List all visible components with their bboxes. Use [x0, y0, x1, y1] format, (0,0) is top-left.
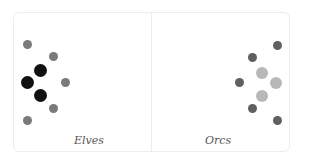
- dot-orcs-1: [248, 53, 257, 62]
- dot-elves-5: [34, 89, 47, 102]
- dot-elves-6: [49, 104, 58, 113]
- dot-orcs-7: [273, 116, 282, 125]
- dot-orcs-2: [256, 67, 268, 79]
- dot-orcs-3: [235, 78, 244, 87]
- panel-label-elves: Elves: [59, 134, 119, 147]
- dot-elves-3: [21, 76, 34, 89]
- dot-elves-0: [23, 40, 32, 49]
- panel-divider: [151, 12, 152, 152]
- dot-orcs-5: [256, 90, 268, 102]
- dot-elves-4: [61, 78, 70, 87]
- dot-orcs-4: [270, 77, 282, 89]
- dot-elves-1: [49, 52, 58, 61]
- panel-label-orcs: Orcs: [188, 134, 248, 147]
- dot-elves-7: [23, 116, 32, 125]
- dot-orcs-0: [273, 41, 282, 50]
- dot-elves-2: [34, 64, 47, 77]
- dot-orcs-6: [248, 104, 257, 113]
